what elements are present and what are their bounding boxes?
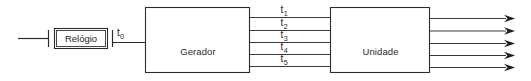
- unidade-de-controle-block: [331, 8, 430, 73]
- signal-label-t5: t5: [276, 54, 292, 64]
- relogio-block-label: Relógio: [56, 33, 106, 44]
- block-diagram: Relógio Gerador de tempo Unidade de cont…: [0, 0, 531, 81]
- signal-label-t0-subscript: 0: [120, 32, 124, 41]
- gerador-de-tempo-block: [146, 8, 250, 73]
- signal-label-t5-subscript: 5: [284, 58, 288, 67]
- signal-label-t2-base: t: [281, 17, 284, 28]
- signal-label-t0: t0: [117, 28, 124, 38]
- signal-label-t1-base: t: [281, 4, 284, 15]
- signal-label-t1-subscript: 1: [284, 9, 288, 18]
- signal-label-t4: t4: [276, 42, 292, 52]
- signal-label-t3: t3: [276, 30, 292, 40]
- signal-label-t5-base: t: [281, 53, 284, 64]
- signal-label-t2: t2: [276, 18, 292, 28]
- signal-label-t1: t1: [276, 5, 292, 15]
- signal-label-t4-base: t: [281, 41, 284, 52]
- signal-label-t3-base: t: [281, 29, 284, 40]
